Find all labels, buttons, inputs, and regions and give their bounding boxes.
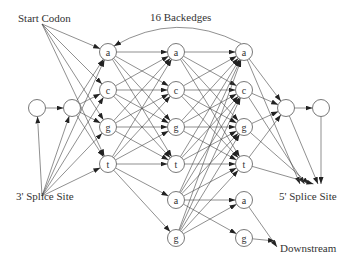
state-node-G1: g — [100, 119, 117, 136]
start-codon-edge — [42, 24, 104, 156]
node-label: c — [174, 85, 179, 96]
node-label: c — [106, 85, 111, 96]
state-node-C3: c — [236, 82, 253, 99]
node-label: a — [242, 47, 247, 58]
node-label: t — [175, 159, 178, 170]
splice5-edge — [289, 116, 318, 184]
node-label: a — [174, 47, 179, 58]
state-node-R1 — [278, 100, 295, 117]
edge-T1-G2b — [114, 170, 170, 231]
edge-T1-A2b — [116, 168, 169, 196]
node-circle — [278, 100, 295, 117]
node-label: a — [242, 195, 247, 206]
splice5-edge — [250, 133, 309, 184]
node-label: g — [242, 233, 247, 244]
node-label: t — [107, 159, 110, 170]
state-node-L1 — [29, 100, 46, 117]
start-codon-edge — [42, 24, 102, 84]
edge-G2b-A3 — [179, 60, 241, 230]
start-codon-edge — [42, 24, 100, 49]
splice3-edge — [37, 116, 42, 196]
splice5-label: 5' Splice Site — [279, 190, 337, 202]
backedge-curve — [114, 27, 241, 46]
state-node-L2 — [64, 100, 81, 117]
state-node-G2b: g — [168, 230, 185, 247]
splice3-label: 3' Splice Site — [16, 190, 74, 202]
node-label: a — [106, 47, 111, 58]
edge-G3-R1 — [252, 112, 279, 124]
state-node-C1: c — [100, 82, 117, 99]
node-label: c — [242, 85, 247, 96]
edge-G2b-G3 — [180, 134, 239, 231]
gene-model-graph: acgtacgtagacgtag Start Codon 16 Backedge… — [0, 0, 350, 268]
downstream-label: Downstream — [280, 242, 337, 254]
state-node-G3: g — [236, 119, 253, 136]
splice3-edge — [42, 133, 102, 196]
state-node-T3: t — [236, 156, 253, 173]
state-node-C2: c — [168, 82, 185, 99]
edge-A3-R1 — [249, 59, 281, 101]
state-node-G3b: g — [236, 230, 253, 247]
edge-L2-G1 — [80, 112, 101, 123]
node-label: g — [174, 233, 179, 244]
edge-A2b-A3 — [180, 60, 241, 193]
node-label: g — [174, 122, 179, 133]
node-label: g — [242, 122, 247, 133]
state-node-T1: t — [100, 156, 117, 173]
edge-C3-R1 — [252, 93, 278, 104]
node-label: t — [243, 159, 246, 170]
backedges-label: 16 Backedges — [150, 11, 211, 23]
state-node-A3: a — [236, 44, 253, 61]
node-label: g — [106, 122, 111, 133]
node-circle — [313, 100, 330, 117]
start-codon-label: Start Codon — [18, 12, 71, 24]
state-node-T2: t — [168, 156, 185, 173]
splice3-edge — [42, 116, 69, 196]
edge-G2b-T3 — [182, 170, 238, 231]
state-node-A1: a — [100, 44, 117, 61]
state-node-A3b: a — [236, 192, 253, 209]
splice3-edge — [42, 60, 104, 196]
state-node-A2b: a — [168, 192, 185, 209]
state-node-A2: a — [168, 44, 185, 61]
node-circle — [64, 100, 81, 117]
state-node-G2: g — [168, 119, 185, 136]
splice5-edge — [252, 166, 313, 184]
state-node-R2 — [313, 100, 330, 117]
node-circle — [29, 100, 46, 117]
splice5-edge — [249, 97, 305, 184]
node-label: a — [174, 195, 179, 206]
